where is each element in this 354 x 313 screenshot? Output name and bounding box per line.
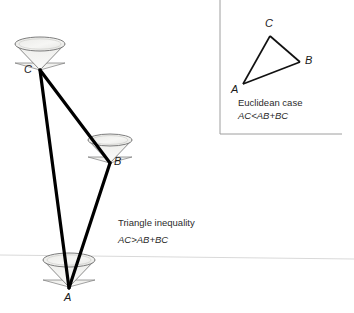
main-caption-title: Triangle inequality bbox=[118, 216, 195, 230]
main-vertex-label-b: B bbox=[114, 156, 121, 167]
inset-vertex-label-b: B bbox=[305, 55, 312, 66]
main-vertex-label-c: C bbox=[24, 64, 32, 75]
inset-edge-ab bbox=[243, 62, 300, 84]
inset-vertex-label-a: A bbox=[231, 84, 238, 95]
diagram-svg bbox=[0, 0, 354, 313]
edge-ba bbox=[69, 163, 110, 288]
inset-triangle-edges bbox=[243, 36, 300, 84]
main-caption-formula: AC>AB+BC bbox=[118, 233, 168, 247]
inset-caption-formula: AC<AB+BC bbox=[238, 109, 288, 123]
inset-vertex-label-c: C bbox=[265, 18, 273, 29]
inset-edge-ac bbox=[243, 36, 270, 84]
inset-edge-cb bbox=[270, 36, 300, 62]
cone-at-vertex-c bbox=[15, 37, 65, 70]
inset-caption-title: Euclidean case bbox=[238, 96, 302, 110]
main-vertex-label-a: A bbox=[64, 292, 71, 303]
cone-at-vertex-b bbox=[88, 134, 132, 163]
figure-canvas: C B A C B A Triangle inequality AC>AB+BC… bbox=[0, 0, 354, 313]
